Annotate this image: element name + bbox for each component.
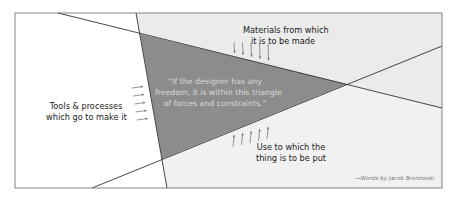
materials-label-line-1: Materials from which <box>243 25 323 36</box>
tools-label: Tools & processes which go to make it <box>46 101 126 123</box>
use-label-line-2: thing is to be put <box>251 153 331 164</box>
quote-line-2: freedom, it is within this triangle <box>155 87 275 98</box>
use-label-line-1: Use to which the <box>251 142 331 153</box>
materials-label-line-2: it is to be made <box>243 36 323 47</box>
materials-label: Materials from which it is to be made <box>243 25 323 47</box>
tools-label-line-1: Tools & processes <box>46 101 126 112</box>
bronowski-quote: “If the designer has any freedom, it is … <box>155 76 275 109</box>
use-label: Use to which the thing is to be put <box>251 142 331 164</box>
quote-line-3: of forces and constraints.” <box>155 98 275 109</box>
quote-line-1: “If the designer has any <box>155 76 275 87</box>
tools-label-line-2: which go to make it <box>46 112 126 123</box>
author-credit: —Words by Jacob Bronowski <box>355 175 434 181</box>
